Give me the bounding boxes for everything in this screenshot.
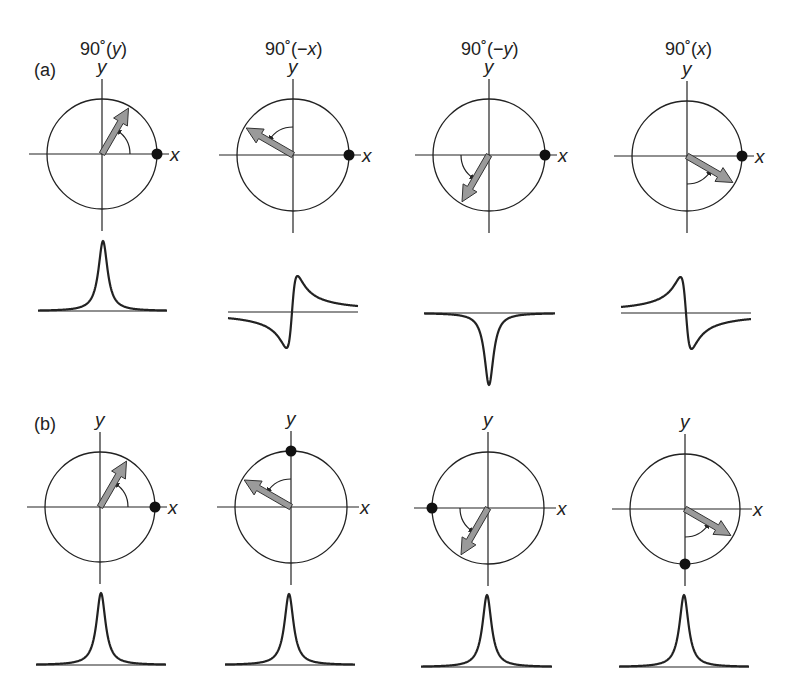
spectrum-line <box>619 595 749 666</box>
receiver-phase-dot-icon <box>286 446 297 457</box>
column-title-4: 90˚(x) <box>665 39 712 59</box>
panel-label-a: (a) <box>34 60 56 80</box>
y-axis-label: y <box>482 56 495 77</box>
spectrum-line <box>421 595 552 667</box>
spectrum-b-4 <box>619 595 749 667</box>
x-axis-label: x <box>752 499 764 520</box>
vector-diagram-b-4: xy <box>612 411 764 586</box>
rotation-arc-icon <box>685 524 708 537</box>
spectrum-b-1 <box>36 593 166 665</box>
x-axis-label: x <box>359 497 371 518</box>
spectrum-line <box>225 594 355 665</box>
rotation-arc-icon <box>460 508 473 531</box>
y-axis-label: y <box>93 409 106 430</box>
vector-diagram-a-4: xy <box>614 58 766 233</box>
x-axis-label: x <box>169 144 181 165</box>
spectrum-line <box>36 593 166 664</box>
magnetization-vector-arrow-icon <box>461 507 491 555</box>
y-axis-label: y <box>481 409 494 430</box>
vector-diagram-b-2: xy <box>217 408 371 585</box>
spectrum-a-1 <box>38 241 167 311</box>
spectrum-b-3 <box>421 595 552 667</box>
magnetization-vector-arrow-icon <box>97 461 126 508</box>
rotation-arc-icon <box>268 479 291 492</box>
spectrum-a-4 <box>621 277 751 349</box>
x-axis-label: x <box>361 145 373 166</box>
spectrum-a-2 <box>228 276 358 348</box>
magnetization-vector-arrow-icon <box>686 153 733 182</box>
receiver-phase-dot-icon <box>344 150 355 161</box>
receiver-phase-dot-icon <box>427 503 438 514</box>
vector-diagram-a-1: xy <box>29 56 181 231</box>
spectrum-line <box>38 241 167 311</box>
vector-diagram-a-2: xy <box>219 56 373 233</box>
receiver-phase-dot-icon <box>540 150 551 161</box>
rotation-arc-icon <box>270 127 293 140</box>
x-axis-label: x <box>556 498 568 519</box>
y-axis-label: y <box>284 408 297 429</box>
receiver-phase-dot-icon <box>150 502 161 513</box>
x-axis-label: x <box>167 497 179 518</box>
spectrum-b-2 <box>225 594 355 665</box>
magnetization-vector-arrow-icon <box>462 154 492 202</box>
x-axis-label: x <box>754 146 766 167</box>
receiver-phase-dot-icon <box>680 559 691 570</box>
magnetization-vector-arrow-icon <box>246 128 294 158</box>
panel-label-b: (b) <box>34 414 56 434</box>
magnetization-vector-arrow-icon <box>684 506 731 535</box>
vector-diagram-b-1: xy <box>27 409 179 584</box>
receiver-phase-dot-icon <box>152 149 163 160</box>
rotation-arc-icon <box>687 171 710 184</box>
magnetization-vector-arrow-icon <box>244 480 292 510</box>
rotation-arc-icon <box>461 155 474 178</box>
nmr-pulse-diagram: 90˚(y)90˚(−x)90˚(−y)90˚(x)(a)(b)xyxyxyxy… <box>0 0 802 691</box>
spectrum-a-3 <box>424 313 555 385</box>
receiver-phase-dot-icon <box>737 151 748 162</box>
vector-diagram-b-3: xy <box>414 409 568 586</box>
y-axis-label: y <box>286 56 299 77</box>
x-axis-label: x <box>557 145 569 166</box>
y-axis-label: y <box>678 411 691 432</box>
magnetization-vector-arrow-icon <box>99 108 128 155</box>
y-axis-label: y <box>680 58 693 79</box>
diagram-layer: 90˚(y)90˚(−x)90˚(−y)90˚(x)(a)(b)xyxyxyxy… <box>27 39 766 667</box>
rotation-arc-icon <box>117 131 130 154</box>
vector-diagram-a-3: xy <box>415 56 569 233</box>
rotation-arc-icon <box>115 484 128 507</box>
spectrum-line <box>424 314 555 386</box>
y-axis-label: y <box>95 56 108 77</box>
